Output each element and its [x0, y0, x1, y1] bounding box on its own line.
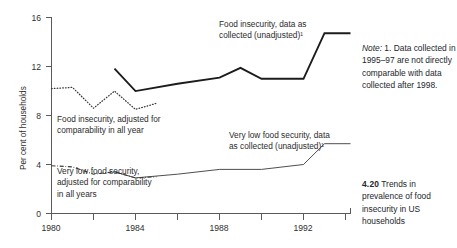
annotation-very-low-food-security-unadjusted: Very low food security, data as collecte… [229, 130, 330, 153]
y-axis-title: Per cent of households [19, 86, 28, 170]
y-tick-label-16: 16 [31, 13, 41, 23]
x-tick-label-1980: 1980 [41, 223, 60, 233]
annotation-food-insecurity-unadjusted: Food insecurity, data as collected (unad… [219, 19, 306, 42]
note-label: Note: [362, 43, 382, 53]
x-axis-ticks [52, 214, 346, 220]
x-tick-label-1984: 1984 [125, 223, 144, 233]
y-tick-label-12: 12 [31, 62, 41, 72]
y-axis-ticks [46, 18, 52, 214]
y-tick-label-4: 4 [36, 160, 41, 170]
annotation-very-low-food-security-adjusted: Very low food security, adjusted for com… [57, 166, 152, 200]
x-tick-label-1988: 1988 [209, 223, 228, 233]
figure-container: 16 12 8 4 0 1980 1984 1988 1992 Per cent… [0, 0, 457, 248]
series-food-insecurity-unadjusted [115, 33, 351, 91]
caption-number: 4.20 [362, 179, 379, 189]
annotation-food-insecurity-adjusted: Food insecurity, adjusted for comparabil… [57, 114, 161, 137]
y-tick-label-0: 0 [36, 209, 41, 219]
y-tick-label-8: 8 [36, 111, 41, 121]
figure-caption: 4.20 Trends in prevalence of food insecu… [362, 178, 457, 228]
figure-note: Note: 1. Data collected in 1995–97 are n… [362, 42, 457, 92]
x-tick-label-1992: 1992 [293, 223, 312, 233]
